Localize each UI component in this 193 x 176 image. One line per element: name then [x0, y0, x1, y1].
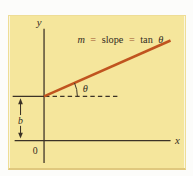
origin-label: 0 [33, 145, 38, 156]
intercept-label: b [18, 115, 23, 126]
y-axis-label: y [36, 16, 42, 28]
formula-equals-2: = [129, 34, 135, 45]
formula-theta: θ [158, 34, 163, 45]
figure-panel: y x 0 θ b m = slope = tan θ [8, 15, 186, 170]
slope-formula: m = slope = tan θ [77, 34, 163, 45]
angle-label: θ [83, 83, 88, 94]
formula-tan: tan [140, 34, 153, 45]
formula-slope-word: slope [102, 34, 124, 45]
x-axis-label: x [174, 134, 180, 146]
slope-diagram: y x 0 θ b m = slope = tan θ [9, 16, 185, 168]
formula-equals-1: = [90, 34, 96, 45]
formula-m: m [77, 34, 84, 45]
